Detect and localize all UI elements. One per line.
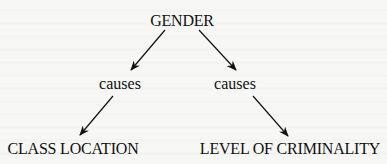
arrow-causes-to-class-location — [80, 96, 113, 135]
relation-causes-right: causes — [214, 76, 256, 92]
node-class-location: CLASS LOCATION — [8, 141, 139, 157]
arrow-gender-to-causes-left — [131, 30, 165, 70]
arrow-causes-to-criminality — [253, 96, 288, 136]
relation-causes-left: causes — [99, 76, 141, 92]
node-gender: GENDER — [150, 13, 214, 29]
node-level-of-criminality: LEVEL OF CRIMINALITY — [200, 141, 380, 157]
arrow-gender-to-causes-right — [199, 30, 236, 70]
